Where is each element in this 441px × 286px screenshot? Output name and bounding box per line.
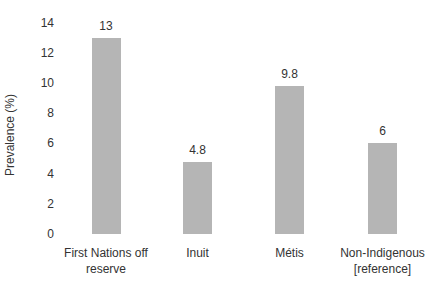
x-category-label-line: reserve	[46, 261, 166, 277]
bar	[368, 143, 397, 234]
y-tick-label: 8	[24, 106, 54, 120]
bar-chart: Prevalence (%) 02468101214 13First Natio…	[0, 0, 441, 286]
value-label: 4.8	[168, 143, 228, 157]
y-tick-label: 2	[24, 197, 54, 211]
bar	[275, 86, 304, 234]
bar	[183, 162, 212, 234]
value-label: 6	[353, 124, 413, 138]
y-axis-label: Prevalence (%)	[3, 94, 17, 176]
x-category-label-line: Non-Indigenous	[323, 245, 441, 261]
y-tick-label: 14	[24, 16, 54, 30]
y-tick-label: 12	[24, 46, 54, 60]
x-category-label-line: [reference]	[323, 261, 441, 277]
y-tick-label: 6	[24, 136, 54, 150]
value-label: 13	[76, 19, 136, 33]
value-label: 9.8	[260, 67, 320, 81]
y-tick-label: 4	[24, 167, 54, 181]
bar	[92, 38, 121, 234]
x-category-label: Non-Indigenous[reference]	[323, 245, 441, 277]
y-tick-label: 0	[24, 227, 54, 241]
y-tick-label: 10	[24, 76, 54, 90]
